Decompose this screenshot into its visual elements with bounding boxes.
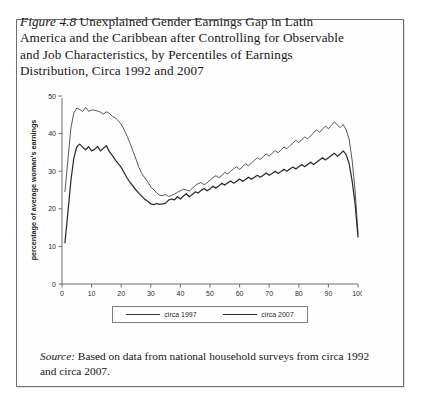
legend-label-circa-1997: circa 1997 — [164, 311, 196, 318]
x-tick-label: 10 — [88, 290, 96, 297]
y-tick-label: 10 — [48, 243, 56, 250]
source-note: Source: Based on data from national hous… — [40, 349, 370, 378]
figure-caption: Figure 4.8 Unexplained Gender Earnings G… — [20, 14, 352, 80]
x-tick-label: 30 — [147, 290, 155, 297]
figure-number: Figure 4.8 — [20, 14, 76, 29]
source-text: Based on data from national household su… — [40, 350, 369, 377]
source-label: Source: — [40, 350, 75, 362]
legend-label-circa-2007: circa 2007 — [261, 311, 293, 318]
y-tick-label: 20 — [48, 205, 56, 212]
x-tick-label: 40 — [177, 290, 185, 297]
y-tick-label: 50 — [48, 93, 56, 100]
x-tick-label: 60 — [236, 290, 244, 297]
x-tick-label: 0 — [60, 290, 64, 297]
line-chart: 010203040500102030405060708090100 earnin… — [24, 88, 362, 328]
y-axis-title: percentage of average woman's earnings — [29, 120, 38, 261]
chart-series — [65, 107, 358, 242]
y-tick-label: 30 — [48, 168, 56, 175]
legend-item-circa-2007: circa 2007 — [223, 311, 293, 318]
x-tick-label: 80 — [295, 290, 303, 297]
x-tick-label: 90 — [325, 290, 333, 297]
x-tick-label: 100 — [352, 290, 362, 297]
legend-swatch-circa-1997 — [126, 314, 160, 315]
x-tick-label: 50 — [206, 290, 214, 297]
y-tick-label: 0 — [52, 281, 56, 288]
chart-axes: 010203040500102030405060708090100 — [48, 93, 362, 297]
x-tick-label: 70 — [265, 290, 273, 297]
series-line-circa-2007 — [65, 144, 358, 243]
legend-swatch-circa-2007 — [223, 314, 257, 315]
chart-legend: circa 1997 circa 2007 — [112, 306, 308, 323]
x-tick-label: 20 — [117, 290, 125, 297]
y-tick-label: 40 — [48, 130, 56, 137]
series-line-circa-1997 — [65, 107, 358, 233]
legend-item-circa-1997: circa 1997 — [126, 311, 196, 318]
chart-plot-area: 010203040500102030405060708090100 earnin… — [24, 88, 362, 328]
